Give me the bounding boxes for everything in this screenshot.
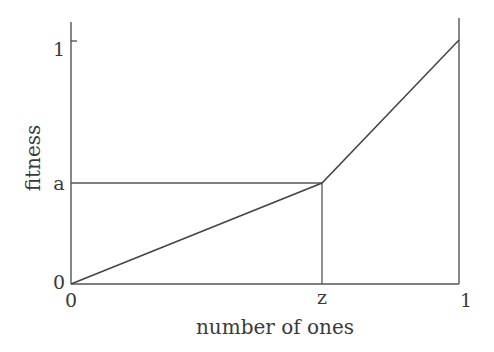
- ytick-0-label: 0: [53, 271, 65, 293]
- ytick-1-label: 1: [53, 38, 65, 60]
- x-axis-label: number of ones: [196, 315, 354, 339]
- fitness-line: [71, 40, 459, 284]
- xtick-1-label: 1: [460, 289, 472, 311]
- xtick-0-label: 0: [65, 289, 77, 311]
- ytick-a-label: a: [53, 172, 64, 194]
- xtick-z-label: z: [317, 286, 327, 308]
- y-axis-label: fitness: [21, 125, 45, 192]
- fitness-chart: 1 a 0 0 z 1 number of ones fitness: [0, 0, 494, 352]
